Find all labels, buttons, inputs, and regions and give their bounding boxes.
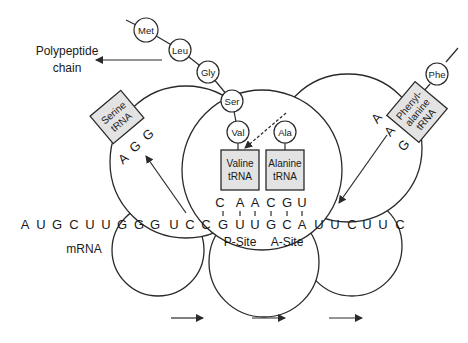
svg-text:Phe: Phe (429, 69, 446, 80)
amino-acid-phe: Phe (426, 63, 448, 85)
svg-text:U: U (314, 217, 323, 232)
svg-text:U: U (101, 217, 110, 232)
svg-text:Val: Val (231, 127, 244, 138)
svg-text:tRNA: tRNA (228, 171, 252, 182)
svg-text:C: C (266, 195, 275, 210)
svg-text:Met: Met (138, 25, 154, 36)
amino-acid-ala: Ala (274, 121, 296, 143)
polypeptide-label: Polypeptide (36, 44, 99, 58)
svg-text:Alanine: Alanine (268, 158, 302, 169)
svg-text:C: C (185, 217, 194, 232)
svg-text:A: A (251, 195, 260, 210)
polypeptide-label-2: chain (53, 61, 82, 75)
svg-text:G: G (218, 217, 228, 232)
svg-text:A: A (236, 195, 245, 210)
amino-acid-met: Met (134, 18, 158, 42)
svg-text:U: U (36, 217, 45, 232)
svg-text:U: U (378, 217, 387, 232)
svg-text:tRNA: tRNA (273, 171, 297, 182)
svg-text:U: U (235, 217, 244, 232)
svg-text:G: G (282, 195, 292, 210)
svg-text:Leu: Leu (172, 45, 188, 56)
svg-text:C: C (347, 217, 356, 232)
svg-text:G: G (266, 217, 276, 232)
svg-text:A: A (298, 217, 307, 232)
svg-text:C: C (395, 217, 404, 232)
alanine-trna: Alanine tRNA (266, 150, 304, 190)
mrna-label: mRNA (66, 242, 101, 256)
amino-acid-leu: Leu (169, 39, 191, 61)
valine-trna: Valine tRNA (221, 150, 259, 190)
svg-text:U: U (362, 217, 371, 232)
svg-text:G: G (150, 217, 160, 232)
svg-text:G: G (117, 217, 127, 232)
svg-text:C: C (201, 217, 210, 232)
p-site-label: P-Site (224, 235, 257, 249)
amino-acid-val: Val (227, 121, 249, 143)
svg-text:Ser: Ser (225, 96, 240, 107)
svg-text:U: U (250, 217, 259, 232)
translation-diagram: Met Leu Gly Ser Val Ala Phe Valine tRNA … (0, 0, 468, 343)
svg-text:G: G (52, 217, 62, 232)
svg-text:G: G (134, 217, 144, 232)
amino-acid-gly: Gly (197, 61, 219, 83)
svg-text:C: C (215, 195, 224, 210)
svg-text:Valine: Valine (226, 158, 253, 169)
svg-text:C: C (69, 217, 78, 232)
svg-text:C: C (282, 217, 291, 232)
svg-text:U: U (297, 195, 306, 210)
svg-text:Gly: Gly (201, 67, 216, 78)
svg-text:U: U (169, 217, 178, 232)
svg-text:U: U (85, 217, 94, 232)
amino-acid-ser: Ser (221, 90, 243, 112)
a-site-label: A-Site (271, 235, 304, 249)
svg-text:A: A (21, 217, 30, 232)
svg-text:U: U (330, 217, 339, 232)
svg-text:Ala: Ala (278, 127, 292, 138)
